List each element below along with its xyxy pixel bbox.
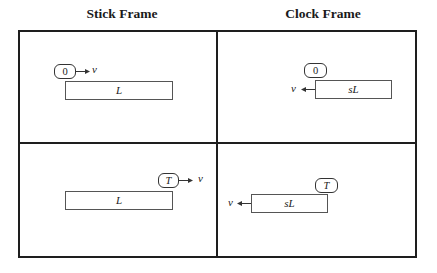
vertical-divider: [216, 30, 218, 258]
stick: L: [65, 81, 173, 100]
clock-frame-heading: Clock Frame: [223, 6, 423, 22]
velocity-label: v: [92, 63, 97, 75]
velocity-label: v: [228, 196, 233, 208]
stick: sL: [315, 80, 392, 99]
velocity-label: v: [291, 82, 296, 94]
clock: T: [158, 173, 179, 188]
clock: 0: [304, 63, 327, 78]
arrow-left-icon: [237, 203, 251, 205]
horizontal-divider: [18, 142, 417, 144]
stick: L: [65, 191, 173, 210]
stick-frame-heading: Stick Frame: [22, 6, 222, 22]
arrow-left-icon: [301, 89, 315, 91]
velocity-label: v: [198, 172, 203, 184]
arrow-right-icon: [76, 71, 90, 73]
arrow-right-icon: [179, 180, 193, 182]
clock: T: [315, 178, 338, 193]
stick: sL: [251, 194, 328, 213]
clock: 0: [54, 64, 76, 79]
